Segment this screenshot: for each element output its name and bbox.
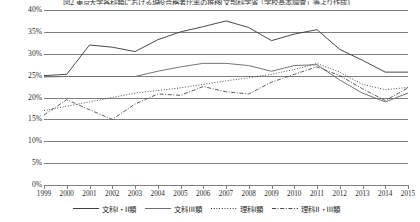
x-tick: [44, 185, 45, 189]
x-tick: [67, 185, 68, 189]
y-tick-label: 30%: [8, 50, 42, 58]
x-tick: [408, 185, 409, 189]
x-tick: [385, 185, 386, 189]
y-tick-label: 40%: [8, 6, 42, 14]
x-tick: [294, 185, 295, 189]
x-tick: [272, 185, 273, 189]
legend-swatch-dotted-icon: [211, 205, 237, 212]
y-tick-label: 5%: [8, 159, 42, 167]
y-tick-label: 15%: [8, 115, 42, 123]
y-tick-label: 10%: [8, 137, 42, 145]
legend-swatch-solid-icon: [145, 205, 171, 212]
gridline: [44, 32, 408, 33]
plot-area: [44, 10, 408, 185]
y-tick-label: 20%: [8, 94, 42, 102]
legend-swatch-solid-icon: [73, 205, 99, 212]
gridline: [44, 163, 408, 164]
gridline: [44, 76, 408, 77]
gridline: [44, 119, 408, 120]
legend-label: 文科III類: [174, 203, 202, 214]
legend-label: 理科II・III類: [301, 203, 340, 214]
x-tick: [249, 185, 250, 189]
gridline: [44, 54, 408, 55]
x-tick: [158, 185, 159, 189]
legend-item[interactable]: 理科I類: [211, 203, 263, 214]
chart-legend: 文科I・II類文科III類理科I類理科II・III類: [0, 203, 413, 214]
gridline: [44, 10, 408, 11]
gridline: [44, 141, 408, 142]
legend-swatch-dashdot-icon: [272, 205, 298, 212]
x-tick: [135, 185, 136, 189]
x-tick: [90, 185, 91, 189]
x-tick-label: 2015: [395, 190, 420, 199]
chart-title: 図2 東京大学各科類における現役合格者比率の推移(文部科学省「学校基本調査」等よ…: [0, 0, 413, 5]
y-tick-label: 25%: [8, 72, 42, 80]
legend-label: 文科I・II類: [102, 203, 137, 214]
legend-item[interactable]: 理科II・III類: [272, 203, 340, 214]
y-tick-label: 0%: [8, 181, 42, 189]
legend-label: 理科I類: [240, 203, 263, 214]
x-tick: [226, 185, 227, 189]
x-tick: [203, 185, 204, 189]
x-tick: [181, 185, 182, 189]
y-tick-label: 35%: [8, 28, 42, 36]
x-tick: [317, 185, 318, 189]
x-tick: [363, 185, 364, 189]
x-tick: [340, 185, 341, 189]
legend-item[interactable]: 文科I・II類: [73, 203, 137, 214]
legend-item[interactable]: 文科III類: [145, 203, 202, 214]
gridline: [44, 98, 408, 99]
x-tick: [112, 185, 113, 189]
